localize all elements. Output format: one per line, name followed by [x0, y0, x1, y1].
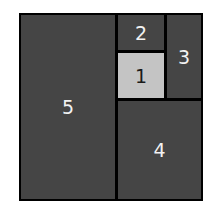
- region-5-label: 5: [62, 96, 74, 118]
- diagram-frame: 5 2 1 3 4: [19, 13, 203, 201]
- region-4: 4: [118, 101, 201, 199]
- region-2-label: 2: [135, 22, 147, 44]
- region-3: 3: [167, 15, 201, 98]
- region-1: 1: [118, 53, 164, 98]
- region-3-label: 3: [178, 46, 190, 68]
- region-2: 2: [118, 15, 164, 50]
- region-1-label: 1: [135, 65, 147, 87]
- region-5: 5: [21, 15, 115, 199]
- region-4-label: 4: [153, 139, 165, 161]
